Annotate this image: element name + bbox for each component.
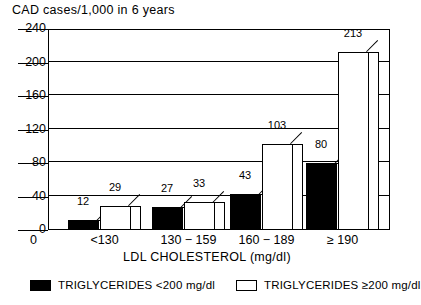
y-tick-mark-240 [18, 29, 48, 30]
bar-front-face [100, 206, 131, 230]
bar-light-0 [100, 195, 141, 230]
bar-value-label: 80 [300, 139, 342, 150]
bar-front-face [230, 194, 261, 230]
y-tick-mark-200 [18, 63, 48, 64]
bar-value-label: 33 [178, 178, 220, 189]
x-tick-label-1: 130 − 159 [144, 234, 234, 247]
bar-front-face [306, 163, 337, 230]
legend-item-1: TRIGLYCERIDES ≥200 mg/dl [236, 279, 421, 291]
bar-front-face [338, 52, 369, 230]
legend-label: TRIGLYCERIDES ≥200 mg/dl [264, 279, 421, 291]
legend-item-0: TRIGLYCERIDES <200 mg/dl [30, 279, 215, 291]
bar-front-face [184, 202, 215, 230]
y-tick-mark-160 [18, 96, 48, 97]
x-tick-label-3: ≥ 190 [298, 234, 388, 247]
legend-label: TRIGLYCERIDES <200 mg/dl [58, 279, 215, 291]
bar-front-face [152, 207, 183, 230]
bar-value-label: 43 [224, 170, 266, 181]
y-axis-baseline-stub [18, 230, 48, 231]
bar-front-face [262, 144, 293, 230]
bar-value-label: 103 [256, 120, 298, 131]
x-tick-label-0: <130 [60, 234, 150, 247]
bar-light-3 [338, 41, 379, 230]
bar-value-label: 29 [94, 182, 136, 193]
bar-side-face [368, 52, 379, 230]
y-axis-zero-label: 0 [30, 234, 37, 247]
bar-side-face [214, 202, 225, 230]
bar-side-face [130, 206, 141, 230]
bar-front-face [68, 220, 99, 230]
legend: TRIGLYCERIDES <200 mg/dlTRIGLYCERIDES ≥2… [0, 279, 414, 299]
bar-value-label: 12 [62, 196, 104, 207]
legend-swatch-dark [30, 280, 51, 291]
bar-value-label: 213 [332, 28, 374, 39]
bar-side-face [292, 144, 303, 230]
legend-swatch-light [236, 280, 257, 291]
chart-title: CAD cases/1,000 in 6 years [12, 3, 175, 17]
y-tick-mark-40 [18, 197, 48, 198]
bar-light-1 [184, 191, 225, 230]
y-tick-mark-80 [18, 163, 48, 164]
x-axis-title: LDL CHOLESTEROL (mg/dl) [0, 250, 414, 264]
bar-light-2 [262, 133, 303, 230]
y-tick-mark-120 [18, 130, 48, 131]
